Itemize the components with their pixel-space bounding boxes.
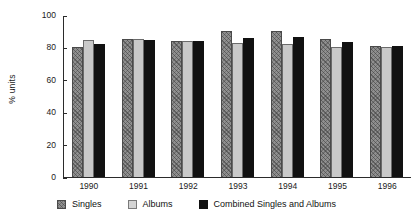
bar <box>392 46 403 177</box>
y-tick-label: 0 <box>32 172 56 183</box>
bar-group <box>312 16 362 177</box>
legend-swatch-icon <box>57 200 66 209</box>
bar <box>381 47 392 177</box>
x-axis-line <box>63 177 411 178</box>
bar-group <box>114 16 164 177</box>
y-tick-label: 100 <box>32 10 56 21</box>
bar <box>282 44 293 177</box>
bar-group <box>163 16 213 177</box>
bar <box>133 39 144 178</box>
legend-swatch-icon <box>199 200 208 209</box>
bar-chart: % units 020406080100 1990199119921993199… <box>0 0 419 224</box>
x-tick-label: 1990 <box>64 181 114 191</box>
legend-swatch-icon <box>128 200 137 209</box>
y-tick-label: 60 <box>32 75 56 86</box>
bar <box>271 31 282 177</box>
x-tick-label: 1991 <box>114 181 164 191</box>
y-tick-mark <box>63 178 67 179</box>
plot-area: 020406080100 <box>63 16 411 178</box>
bar <box>144 40 155 177</box>
bar-group <box>213 16 263 177</box>
x-axis-labels: 1990199119921993199419951996 <box>64 181 412 191</box>
x-tick-label: 1994 <box>263 181 313 191</box>
bar <box>232 43 243 177</box>
legend-item[interactable]: Combined Singles and Albums <box>199 199 337 209</box>
bar <box>293 37 304 177</box>
y-tick-label: 80 <box>32 42 56 53</box>
legend-item[interactable]: Singles <box>57 199 102 209</box>
bar <box>342 42 353 177</box>
bar <box>72 47 83 177</box>
bar <box>331 47 342 177</box>
bar <box>83 40 94 177</box>
x-tick-label: 1992 <box>163 181 213 191</box>
bar <box>182 41 193 177</box>
bar <box>243 38 254 177</box>
bar <box>320 39 331 177</box>
bar <box>193 41 204 177</box>
bar <box>370 46 381 177</box>
x-tick-label: 1995 <box>313 181 363 191</box>
bar <box>171 41 182 177</box>
y-tick-label: 20 <box>32 140 56 151</box>
bar <box>221 31 232 177</box>
x-tick-label: 1993 <box>213 181 263 191</box>
bar-group <box>262 16 312 177</box>
bar-groups <box>64 16 411 177</box>
bar-group <box>361 16 411 177</box>
legend-label: Combined Singles and Albums <box>214 199 337 209</box>
chart-legend: SinglesAlbumsCombined Singles and Albums <box>57 199 362 209</box>
y-tick-label: 40 <box>32 107 56 118</box>
bar <box>122 39 133 177</box>
legend-label: Albums <box>143 199 173 209</box>
bar-group <box>64 16 114 177</box>
bar <box>94 44 105 177</box>
legend-item[interactable]: Albums <box>128 199 173 209</box>
y-axis-title: % units <box>7 59 17 119</box>
x-tick-label: 1996 <box>362 181 412 191</box>
legend-label: Singles <box>72 199 102 209</box>
